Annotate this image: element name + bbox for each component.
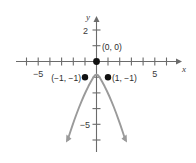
y-axis-arrow-icon [94,16,100,22]
point-label-1-neg1: (1, −1) [112,73,137,83]
point-marker-1-neg1 [105,74,111,80]
x-tick-label-5: 5 [152,69,157,79]
point-label-neg1-neg1: (−1, −1) [51,73,81,83]
y-tick-label-2: 2 [83,26,88,36]
point-marker-0-0 [93,58,100,65]
x-tick-label-minus5: −5 [33,69,43,79]
parabola-plot: y x −5 5 2 −5 (0, 0) (−1, −1) (1, −1) [0,0,196,163]
axes-group [16,16,182,152]
graph-figure: y x −5 5 2 −5 (0, 0) (−1, −1) (1, −1) [0,0,196,163]
point-label-0-0: (0, 0) [102,42,122,52]
y-tick-label-minus5: −5 [80,120,90,130]
point-marker-neg1-neg1 [82,74,88,80]
y-axis-label: y [85,12,90,22]
x-axis-label: x [181,64,186,74]
